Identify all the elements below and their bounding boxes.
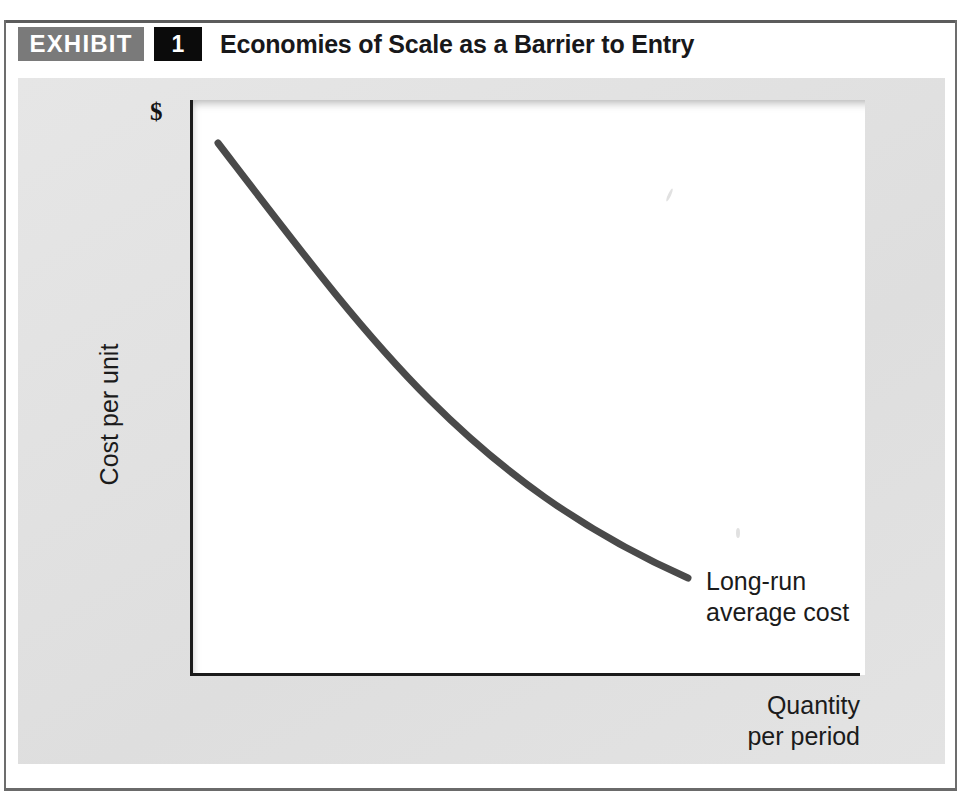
y-axis-title: Cost per unit xyxy=(95,300,124,530)
curve-annotation-line1: Long-run xyxy=(706,566,849,597)
frame-border-bottom xyxy=(4,788,957,791)
frame-border-top xyxy=(4,20,957,23)
exhibit-number-badge: 1 xyxy=(154,27,202,61)
curve-annotation-line2: average cost xyxy=(706,597,849,628)
curve-annotation: Long-run average cost xyxy=(706,566,849,628)
exhibit-page: EXHIBIT 1 Economies of Scale as a Barrie… xyxy=(0,0,963,810)
y-axis-currency-label: $ xyxy=(150,98,163,126)
frame-border-left xyxy=(4,20,6,790)
x-axis-title-line2: per period xyxy=(640,721,860,752)
x-axis-title: Quantity per period xyxy=(640,690,860,752)
y-axis-line xyxy=(190,100,193,676)
exhibit-header: EXHIBIT 1 Economies of Scale as a Barrie… xyxy=(18,26,694,62)
figure-panel xyxy=(18,78,945,764)
exhibit-badge: EXHIBIT xyxy=(18,27,144,61)
x-axis-title-line1: Quantity xyxy=(640,690,860,721)
frame-border-right xyxy=(955,20,957,790)
exhibit-title: Economies of Scale as a Barrier to Entry xyxy=(220,30,694,59)
x-axis-line xyxy=(190,673,860,676)
